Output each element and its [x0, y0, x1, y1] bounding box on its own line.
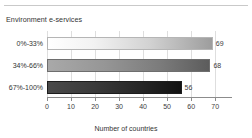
tick-label-50: 50 — [163, 102, 171, 111]
category-axis-labels: 0%-33%34%-66%67%-100% — [0, 31, 43, 97]
tick-label-20: 20 — [91, 102, 99, 111]
tick-70 — [215, 98, 216, 101]
top-divider — [4, 5, 248, 6]
category-label-0%-33%: 0%-33% — [17, 39, 43, 48]
bar-value-label: 68 — [213, 61, 221, 70]
bar-67%-100%[interactable] — [47, 81, 182, 94]
bar-row: 68 — [47, 59, 232, 72]
tick-label-40: 40 — [139, 102, 147, 111]
tick-0 — [47, 98, 48, 101]
bar-value-label: 69 — [216, 39, 224, 48]
bar-row: 56 — [47, 81, 232, 94]
x-axis-tick-labels: 010203040506070 — [47, 102, 232, 112]
bar-34%-66%[interactable] — [47, 59, 210, 72]
tick-label-0: 0 — [45, 102, 49, 111]
tick-30 — [119, 98, 120, 101]
category-label-67%-100%: 67%-100% — [9, 83, 43, 92]
tick-label-30: 30 — [115, 102, 123, 111]
tick-label-60: 60 — [187, 102, 195, 111]
tick-20 — [95, 98, 96, 101]
bar-0%-33%[interactable] — [47, 37, 213, 50]
tick-40 — [143, 98, 144, 101]
tick-60 — [191, 98, 192, 101]
bar-value-label: 56 — [185, 83, 193, 92]
bar-series: 696856 — [47, 31, 232, 97]
tick-10 — [71, 98, 72, 101]
x-axis-title: Number of countries — [0, 124, 252, 133]
tick-50 — [167, 98, 168, 101]
chart-figure: Environment e-services 0%-33%34%-66%67%-… — [0, 0, 252, 138]
bar-row: 69 — [47, 37, 232, 50]
category-label-34%-66%: 34%-66% — [13, 61, 43, 70]
tick-label-10: 10 — [67, 102, 75, 111]
tick-label-70: 70 — [211, 102, 219, 111]
plot-area: 696856 — [47, 31, 232, 97]
chart-title: Environment e-services — [6, 15, 82, 24]
